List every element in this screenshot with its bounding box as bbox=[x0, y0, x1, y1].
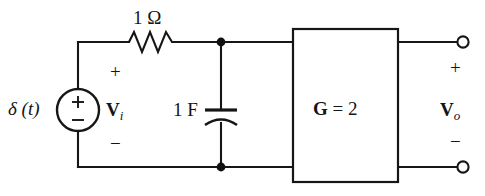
independent-voltage-source-icon bbox=[57, 89, 99, 131]
junction-dot-icon bbox=[217, 163, 226, 172]
gain-value: 2 bbox=[348, 98, 358, 119]
source-label: δ (t) bbox=[8, 99, 40, 118]
capacitor-value-label: 1 F bbox=[173, 100, 198, 119]
output-voltage-subscript: o bbox=[454, 108, 461, 123]
schematic-canvas bbox=[0, 0, 485, 196]
output-voltage-symbol: V bbox=[440, 99, 454, 120]
input-polarity-minus: − bbox=[110, 134, 121, 153]
open-terminal-circle-icon bbox=[457, 36, 468, 47]
output-polarity-minus: − bbox=[450, 132, 461, 151]
gain-equals: = bbox=[328, 98, 348, 119]
input-voltage-symbol: V bbox=[106, 99, 120, 120]
junction-dot-icon bbox=[217, 38, 226, 47]
input-polarity-plus: + bbox=[110, 62, 121, 81]
input-voltage-label: Vi bbox=[106, 100, 123, 122]
gain-block-label: G = 2 bbox=[313, 99, 358, 118]
circuit-diagram: δ (t) 1 Ω 1 F G = 2 Vi Vo + − + − bbox=[0, 0, 485, 196]
resistor-zigzag-icon bbox=[129, 32, 177, 52]
output-polarity-plus: + bbox=[450, 58, 461, 77]
resistor-value-label: 1 Ω bbox=[133, 8, 161, 27]
input-voltage-subscript: i bbox=[120, 108, 124, 123]
output-voltage-label: Vo bbox=[440, 100, 460, 122]
open-terminal-circle-icon bbox=[457, 161, 468, 172]
gain-symbol: G bbox=[313, 98, 328, 119]
